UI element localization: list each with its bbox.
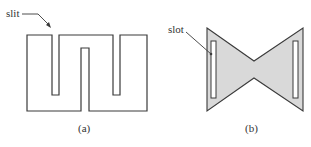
caption-b: (b) [245,122,258,135]
caption-a: (a) [78,122,91,135]
panel-b: slot (b) [168,23,303,135]
left-slot [211,41,216,98]
slit-label: slit [6,7,19,19]
figure-canvas: slit (a) slot (b) [0,0,311,147]
meander-outline [27,35,147,111]
bowtie-shape [207,28,303,111]
slit-leader-line [22,14,49,25]
slot-pointer-dot-icon [210,53,213,56]
slot-label: slot [168,23,184,35]
right-slot [293,41,298,98]
panel-a: slit (a) [6,7,147,135]
